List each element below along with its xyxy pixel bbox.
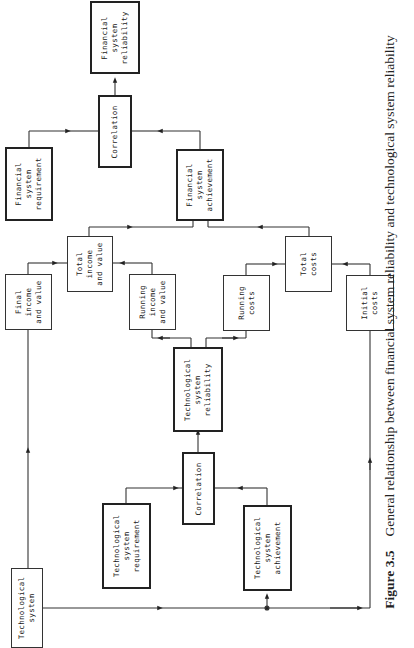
figure-caption: Figure 3.5General relationship between f… [382, 35, 398, 608]
financial-system-requirement-box: Financial system requirement [5, 147, 53, 221]
running-income-and-value-label: Running income and value [138, 280, 168, 323]
financial-correlation-label: Correlation [110, 105, 120, 158]
running-costs-box: Running costs [223, 275, 270, 331]
total-income-and-value-box: Total income and value [67, 236, 113, 292]
technological-system-requirement-label: Technological system requirement [112, 515, 142, 578]
final-income-and-value-label: Final income and value [14, 280, 44, 323]
total-income-and-value-label: Total income and value [75, 242, 105, 285]
total-costs-label: Total costs [299, 252, 319, 276]
financial-system-achievement-box: Financial system achievement [176, 149, 224, 221]
financial-correlation-box: Correlation [98, 95, 132, 168]
technological-system-label: Technological system [17, 577, 37, 640]
technological-system-reliability-label: Technological system reliability [183, 358, 213, 421]
technological-system-box: Technological system [11, 568, 43, 648]
financial-system-reliability-box: Financial system reliability [90, 1, 140, 74]
technological-system-requirement-box: Technological system requirement [102, 503, 151, 589]
figure-caption-text: General relationship between financial s… [382, 35, 397, 536]
technological-correlation-box: Correlation [182, 452, 215, 525]
financial-system-achievement-label: Financial system achievement [185, 159, 215, 212]
technological-system-achievement-label: Technological system achievement [253, 517, 283, 580]
initial-costs-label: Initial costs [360, 286, 380, 320]
total-costs-box: Total costs [285, 236, 332, 292]
financial-system-reliability-label: Financial system reliability [100, 11, 130, 64]
technological-system-reliability-box: Technological system reliability [173, 347, 223, 432]
financial-system-requirement-label: Financial system requirement [14, 158, 44, 211]
technological-system-achievement-box: Technological system achievement [243, 505, 292, 591]
figure-number: Figure 3.5 [382, 550, 397, 608]
final-income-and-value-box: Final income and value [5, 274, 52, 330]
running-costs-label: Running costs [237, 286, 257, 320]
technological-correlation-label: Correlation [194, 462, 204, 515]
running-income-and-value-box: Running income and value [129, 274, 176, 330]
